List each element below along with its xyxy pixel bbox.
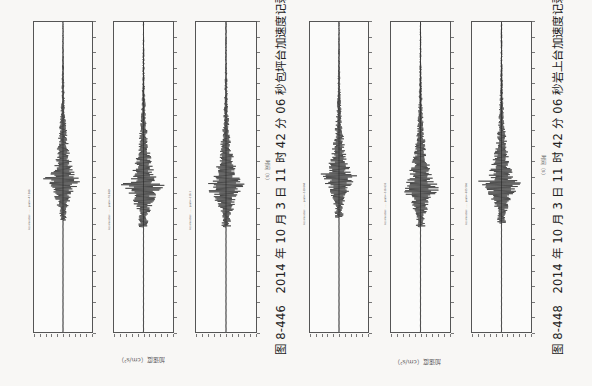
amplitude-tick — [138, 334, 139, 337]
amplitude-tick — [502, 334, 503, 337]
time-tick — [174, 239, 177, 240]
accelerogram-panel-5 — [390, 21, 451, 333]
time-tick — [451, 83, 454, 84]
time-tick — [532, 99, 535, 100]
amplitude-tick — [144, 334, 145, 337]
time-tick — [369, 333, 372, 334]
time-tick — [532, 130, 535, 131]
time-tick — [451, 68, 454, 69]
panel-title: Acceleration: ...... peak=-118.1 — [189, 191, 192, 230]
time-tick — [532, 115, 535, 116]
time-tick — [451, 333, 454, 334]
amplitude-tick — [149, 334, 150, 337]
amplitude-axis — [390, 334, 451, 346]
time-tick — [257, 333, 260, 334]
time-tick — [451, 302, 454, 303]
time-tick — [369, 239, 372, 240]
y-axis-label: 加速度（cm/s²） — [394, 358, 441, 367]
time-tick — [369, 21, 372, 22]
panel-title: Acceleration: ...... peak=-78.689 — [108, 189, 111, 230]
amplitude-tick — [114, 334, 115, 337]
panel-title: Acceleration: ...... peak=-205.566 — [465, 183, 468, 225]
time-tick — [174, 193, 177, 194]
amplitude-tick — [232, 334, 233, 337]
time-tick — [93, 302, 96, 303]
time-tick — [257, 146, 260, 147]
time-tick — [174, 286, 177, 287]
time-tick — [369, 99, 372, 100]
time-axis — [257, 21, 263, 333]
amplitude-tick — [86, 334, 87, 337]
time-tick — [451, 161, 454, 162]
accelerogram-panel-2 — [113, 21, 174, 333]
amplitude-tick — [397, 334, 398, 337]
time-tick — [257, 271, 260, 272]
time-tick — [369, 52, 372, 53]
time-tick — [369, 193, 372, 194]
time-tick — [257, 21, 260, 22]
amplitude-tick — [438, 334, 439, 337]
panel-title: Acceleration: ...... peak=-47.068 — [28, 189, 31, 230]
amplitude-tick — [167, 334, 168, 337]
time-tick — [257, 37, 260, 38]
time-tick — [93, 193, 96, 194]
amplitude-tick — [120, 334, 121, 337]
time-tick — [451, 21, 454, 22]
amplitude-tick — [391, 334, 392, 337]
document-page: Acceleration: ...... peak=-47.068 Accele… — [0, 0, 592, 386]
amplitude-axis — [113, 334, 174, 346]
amplitude-axis — [309, 334, 369, 346]
amplitude-tick — [426, 334, 427, 337]
time-tick — [369, 37, 372, 38]
waveform-trace — [114, 22, 173, 332]
time-tick — [174, 177, 177, 178]
time-tick — [532, 161, 535, 162]
waveform-trace — [391, 22, 450, 332]
amplitude-tick — [161, 334, 162, 337]
amplitude-tick — [421, 334, 422, 337]
accelerogram-panel-4 — [309, 21, 369, 333]
amplitude-tick — [339, 334, 340, 337]
time-tick — [369, 161, 372, 162]
amplitude-tick — [415, 334, 416, 337]
time-tick — [532, 286, 535, 287]
time-tick — [369, 302, 372, 303]
time-tick — [369, 83, 372, 84]
time-tick — [369, 224, 372, 225]
time-tick — [174, 99, 177, 100]
time-tick — [93, 161, 96, 162]
time-tick — [369, 146, 372, 147]
time-tick — [257, 208, 260, 209]
time-tick — [451, 239, 454, 240]
time-tick — [451, 99, 454, 100]
time-tick — [532, 37, 535, 38]
amplitude-tick — [34, 334, 35, 337]
time-tick — [257, 239, 260, 240]
time-tick — [93, 99, 96, 100]
time-tick — [174, 68, 177, 69]
amplitude-axis — [471, 334, 532, 346]
time-tick — [257, 302, 260, 303]
time-tick — [174, 115, 177, 116]
time-tick — [174, 317, 177, 318]
amplitude-axis — [33, 334, 93, 346]
time-tick — [257, 286, 260, 287]
time-tick — [174, 146, 177, 147]
time-tick — [532, 317, 535, 318]
amplitude-tick — [75, 334, 76, 337]
x-axis-label: 时间（s） — [265, 160, 272, 183]
time-tick — [532, 177, 535, 178]
amplitude-tick — [327, 334, 328, 337]
time-tick — [257, 68, 260, 69]
time-tick — [532, 302, 535, 303]
time-tick — [174, 83, 177, 84]
time-tick — [532, 224, 535, 225]
amplitude-tick — [69, 334, 70, 337]
time-tick — [93, 333, 96, 334]
time-tick — [257, 52, 260, 53]
time-tick — [174, 224, 177, 225]
time-tick — [257, 99, 260, 100]
amplitude-tick — [51, 334, 52, 337]
time-tick — [369, 208, 372, 209]
time-tick — [257, 83, 260, 84]
